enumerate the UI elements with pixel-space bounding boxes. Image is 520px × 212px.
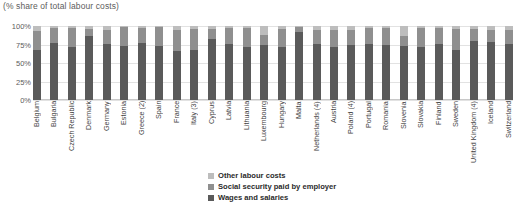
x-axis-tick-label: Denmark (85, 101, 93, 163)
stacked-bar[interactable] (400, 26, 408, 100)
bar-segment[interactable] (365, 28, 373, 44)
bar-segment[interactable] (452, 50, 460, 100)
bar-segment[interactable] (225, 28, 233, 44)
bar-segment[interactable] (243, 28, 251, 48)
stacked-bar[interactable] (138, 26, 146, 100)
bar-segment[interactable] (365, 44, 373, 100)
bar-segment[interactable] (138, 28, 146, 43)
bar-segment[interactable] (505, 30, 513, 43)
bar-segment[interactable] (400, 36, 408, 46)
bar-segment[interactable] (382, 45, 390, 100)
stacked-bar[interactable] (68, 26, 76, 100)
bar-segment[interactable] (68, 47, 76, 100)
bar-segment[interactable] (417, 28, 425, 47)
x-axis-labels: BelgiumBulgariaCzech RepublicDenmarkGerm… (33, 101, 513, 163)
bar-segment[interactable] (313, 44, 321, 100)
bar-segment[interactable] (452, 29, 460, 50)
bar-segment[interactable] (68, 28, 76, 47)
stacked-bar[interactable] (278, 26, 286, 100)
bar-segment[interactable] (85, 29, 93, 36)
bar-segment[interactable] (208, 39, 216, 100)
stacked-bar[interactable] (435, 26, 443, 100)
chart-legend: Other labour costsSocial security paid b… (208, 171, 336, 202)
bar-segment[interactable] (470, 29, 478, 41)
stacked-bar[interactable] (155, 26, 163, 100)
y-axis-tick-label: 0% (1, 96, 31, 105)
bar-segment[interactable] (208, 29, 216, 39)
x-axis-tick-label: Italy (3) (190, 101, 198, 163)
stacked-bar[interactable] (382, 26, 390, 100)
stacked-bar[interactable] (33, 26, 41, 100)
stacked-bar[interactable] (347, 26, 355, 100)
x-axis-tick-label: Hungary (278, 101, 286, 163)
stacked-bar[interactable] (85, 26, 93, 100)
bar-segment[interactable] (400, 46, 408, 100)
bar-segment[interactable] (313, 30, 321, 43)
bar-segment[interactable] (85, 36, 93, 100)
bar-segment[interactable] (50, 43, 58, 100)
bar-segment[interactable] (417, 47, 425, 100)
bar-segment[interactable] (50, 28, 58, 44)
stacked-bar[interactable] (260, 26, 268, 100)
bar-segment[interactable] (173, 51, 181, 100)
bar-segment[interactable] (155, 27, 163, 46)
stacked-bar[interactable] (208, 26, 216, 100)
y-axis-tick-label: 25% (1, 77, 31, 86)
legend-item[interactable]: Other labour costs (208, 171, 336, 180)
bar-segment[interactable] (260, 35, 268, 45)
bar-segment[interactable] (435, 44, 443, 100)
bar-segment[interactable] (347, 45, 355, 100)
bar-segment[interactable] (435, 28, 443, 44)
bar-segment[interactable] (400, 26, 408, 36)
stacked-bar[interactable] (103, 26, 111, 100)
chart-title: (% share of total labour costs) (3, 1, 119, 11)
bar-segment[interactable] (225, 44, 233, 100)
stacked-bar[interactable] (487, 26, 495, 100)
stacked-bar[interactable] (190, 26, 198, 100)
stacked-bar[interactable] (330, 26, 338, 100)
bar-segment[interactable] (173, 30, 181, 51)
stacked-bar[interactable] (505, 26, 513, 100)
stacked-bar[interactable] (417, 26, 425, 100)
bar-segment[interactable] (190, 50, 198, 100)
stacked-bar[interactable] (313, 26, 321, 100)
stacked-bar[interactable] (365, 26, 373, 100)
bar-segment[interactable] (470, 41, 478, 100)
stacked-bar[interactable] (173, 26, 181, 100)
bar-segment[interactable] (330, 47, 338, 100)
bar-segment[interactable] (243, 47, 251, 100)
bar-segment[interactable] (260, 45, 268, 101)
bar-segment[interactable] (487, 30, 495, 42)
bar-segment[interactable] (120, 46, 128, 100)
bar-segment[interactable] (138, 43, 146, 100)
bar-segment[interactable] (260, 26, 268, 35)
legend-item[interactable]: Wages and salaries (208, 193, 336, 202)
y-axis-tick-label: 50% (1, 59, 31, 68)
stacked-bar[interactable] (243, 26, 251, 100)
bar-segment[interactable] (103, 30, 111, 44)
bar-segment[interactable] (155, 46, 163, 100)
bar-segment[interactable] (120, 27, 128, 46)
stacked-bar[interactable] (50, 26, 58, 100)
stacked-bar[interactable] (225, 26, 233, 100)
bar-segment[interactable] (190, 29, 198, 50)
bar-segment[interactable] (103, 44, 111, 100)
stacked-bar[interactable] (470, 26, 478, 100)
legend-item[interactable]: Social security paid by employer (208, 182, 336, 191)
bar-segment[interactable] (295, 32, 303, 100)
stacked-bar[interactable] (295, 26, 303, 100)
bar-segment[interactable] (278, 47, 286, 100)
bar-segment[interactable] (347, 30, 355, 45)
bar-segment[interactable] (330, 30, 338, 47)
bar-segment[interactable] (505, 44, 513, 100)
bar-segment[interactable] (487, 42, 495, 100)
bar-segment[interactable] (382, 28, 390, 46)
bar-segment[interactable] (278, 29, 286, 47)
stacked-bar[interactable] (452, 26, 460, 100)
y-axis-tick-label: 100% (1, 22, 31, 31)
stacked-bar[interactable] (120, 26, 128, 100)
bar-segment[interactable] (33, 50, 41, 100)
bar-segment[interactable] (33, 31, 41, 50)
x-axis-tick-label: Luxembourg (260, 101, 268, 163)
x-axis-tick-label: France (173, 101, 181, 163)
